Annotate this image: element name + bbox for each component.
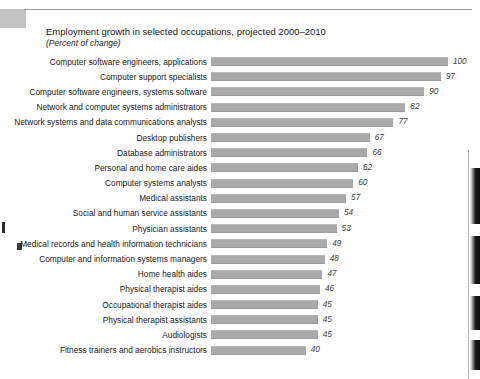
bar-value-label: 60 [358,178,367,188]
chart-row: Audiologists45 [0,327,480,342]
chart-row: Medical records and health information t… [0,236,480,251]
chart-row: Network and computer systems administrat… [0,100,480,115]
bar [211,194,346,203]
bar-value-label: 48 [330,254,339,264]
bar-chart-plot: Computer software engineers, application… [0,54,480,358]
bar-track: 46 [211,282,480,297]
bar-track: 57 [211,191,480,206]
bar [211,270,322,279]
scan-artifact-corner [0,9,26,28]
chart-row: Medical assistants57 [0,191,480,206]
chart-row: Computer support specialists97 [0,69,480,84]
bar [211,148,367,157]
bar-value-label: 54 [344,208,353,218]
chart-row: Home health aides47 [0,267,480,282]
bar-category-label: Fitness trainers and aerobics instructor… [0,345,211,355]
bar-category-label: Computer systems analysts [0,178,211,188]
bar-track: 45 [211,297,480,312]
bar-track: 62 [211,160,480,175]
bar [211,255,325,264]
bar-category-label: Audiologists [0,330,211,340]
bar-value-label: 40 [311,345,320,355]
bar [211,133,370,142]
bar [211,209,339,218]
bar-track: 97 [211,69,480,84]
bar [211,87,424,96]
bar-track: 67 [211,130,480,145]
bar-category-label: Medical records and health information t… [0,239,211,249]
bar-category-label: Network and computer systems administrat… [0,102,211,112]
bar-category-label: Occupational therapist aides [0,300,211,310]
bar-track: 40 [211,343,480,358]
bar-category-label: Database administrators [0,148,211,158]
bar-track: 54 [211,206,480,221]
bar-category-label: Personal and home care aides [0,163,211,173]
bar [211,224,337,233]
chart-row: Computer and information systems manager… [0,251,480,266]
bar [211,285,320,294]
bar-category-label: Desktop publishers [0,133,211,143]
chart-row: Desktop publishers67 [0,130,480,145]
bar-category-label: Physician assistants [0,224,211,234]
bar-track: 45 [211,312,480,327]
bar-track: 48 [211,251,480,266]
bar-value-label: 67 [375,133,384,143]
bar-track: 90 [211,84,480,99]
bar [211,118,393,127]
bar-category-label: Physical therapist assistants [0,315,211,325]
bar [211,179,353,188]
bar-category-label: Computer software engineers, systems sof… [0,87,211,97]
bar-value-label: 46 [325,284,334,294]
chart-row: Social and human service assistants54 [0,206,480,221]
bar-category-label: Physical therapist aides [0,284,211,294]
bar-track: 60 [211,176,480,191]
bar-category-label: Medical assistants [0,193,211,203]
chart-row: Occupational therapist aides45 [0,297,480,312]
bar [211,330,318,339]
chart-header: Employment growth in selected occupation… [46,26,466,49]
chart-row: Physician assistants53 [0,221,480,236]
header-rule [24,9,472,10]
chart-row: Physical therapist aides46 [0,282,480,297]
bar-track: 100 [211,54,480,69]
chart-subtitle: (Percent of change) [46,38,466,49]
bar [211,72,441,81]
bar [211,300,318,309]
bar [211,239,327,248]
chart-page: Employment growth in selected occupation… [0,0,480,379]
chart-title: Employment growth in selected occupation… [46,26,466,38]
bar-category-label: Computer and information systems manager… [0,254,211,264]
bar-track: 82 [211,100,480,115]
chart-row: Computer systems analysts60 [0,176,480,191]
bar-value-label: 100 [453,57,467,67]
bar-track: 66 [211,145,480,160]
bar-value-label: 66 [372,148,381,158]
bar-value-label: 47 [327,269,336,279]
bar-value-label: 77 [398,117,407,127]
bar [211,163,358,172]
chart-row: Computer software engineers, application… [0,54,480,69]
bar [211,346,306,355]
bar-track: 77 [211,115,480,130]
bar-category-label: Social and human service assistants [0,208,211,218]
bar-value-label: 45 [323,315,332,325]
bar-value-label: 49 [332,239,341,249]
bar [211,103,405,112]
chart-row: Physical therapist assistants45 [0,312,480,327]
bar-track: 53 [211,221,480,236]
bar-track: 47 [211,267,480,282]
bar-category-label: Computer software engineers, application… [0,57,211,67]
bar-value-label: 53 [342,224,351,234]
bar-category-label: Home health aides [0,269,211,279]
bar-value-label: 62 [363,163,372,173]
bar-category-label: Computer support specialists [0,72,211,82]
chart-row: Computer software engineers, systems sof… [0,84,480,99]
bar-value-label: 57 [351,193,360,203]
bar-value-label: 82 [410,102,419,112]
bar-value-label: 97 [446,72,455,82]
bar-value-label: 45 [323,330,332,340]
bar [211,57,448,66]
chart-row: Personal and home care aides62 [0,160,480,175]
bar-category-label: Network systems and data communications … [0,117,211,127]
bar [211,315,318,324]
